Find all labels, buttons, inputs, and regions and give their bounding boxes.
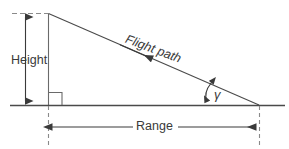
range-label: Range [136,120,173,133]
gamma-angle-arc [206,83,212,102]
right-angle-marker [49,93,62,106]
gamma-angle-label: γ [214,88,221,101]
flight-path-diagram: Height Flight path Range γ [0,0,289,149]
height-label: Height [11,54,47,67]
flight-path-line [49,14,260,106]
